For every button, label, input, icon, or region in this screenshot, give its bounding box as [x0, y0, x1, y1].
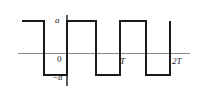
y-axis-label-amplitude-negative: −a [52, 73, 63, 82]
square-wave-trace [22, 21, 170, 75]
y-axis-label-amplitude-positive: a [55, 16, 60, 25]
plot-canvas [0, 0, 197, 100]
origin-label: 0 [57, 55, 62, 64]
x-axis-label-period: T [120, 57, 125, 66]
square-wave-figure: a 0 −a T 2T [0, 0, 197, 100]
x-axis-label-double-period: 2T [172, 57, 182, 66]
